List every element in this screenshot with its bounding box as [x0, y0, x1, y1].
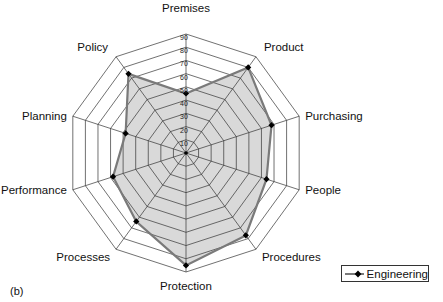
- axis-label-purchasing: Purchasing: [305, 110, 363, 122]
- axis-label-policy: Policy: [77, 41, 108, 53]
- legend-marker-icon: [345, 269, 364, 279]
- tick-label: 10: [180, 140, 188, 147]
- axis-label-product: Product: [264, 41, 304, 53]
- tick-label: 90: [180, 34, 188, 41]
- radial-tick-labels: 102030405060708090: [180, 34, 188, 147]
- panel-label: (b): [10, 285, 23, 297]
- center-dot: [184, 151, 188, 155]
- tick-label: 80: [180, 47, 188, 54]
- tick-label: 40: [180, 100, 188, 107]
- axis-label-planning: Planning: [22, 110, 67, 122]
- legend: Engineering: [341, 265, 429, 282]
- tick-label: 50: [180, 87, 188, 94]
- tick-label: 60: [180, 74, 188, 81]
- axis-label-procedures: Procedures: [262, 251, 321, 263]
- axis-label-people: People: [305, 184, 341, 196]
- radar-chart: 102030405060708090 PremisesProductPurcha…: [0, 0, 443, 302]
- axis-label-processes: Processes: [56, 251, 110, 263]
- axis-label-protection: Protection: [160, 280, 212, 292]
- axis-label-performance: Performance: [1, 184, 67, 196]
- legend-label: Engineering: [367, 268, 428, 280]
- tick-label: 70: [180, 60, 188, 67]
- axis-label-premises: Premises: [162, 2, 210, 14]
- tick-label: 20: [180, 127, 188, 134]
- tick-label: 30: [180, 113, 188, 120]
